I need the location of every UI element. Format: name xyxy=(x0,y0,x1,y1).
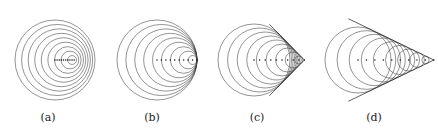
source-position-dot xyxy=(391,59,393,61)
source-position-dot xyxy=(287,59,289,61)
source-position-dot xyxy=(281,59,283,61)
source-position-dot xyxy=(65,59,67,61)
source-position-dot xyxy=(408,59,410,61)
source-position-dot xyxy=(357,59,359,61)
source-position-dot xyxy=(298,59,300,61)
source-position-dot xyxy=(69,59,71,61)
panel-label-a: (a) xyxy=(40,111,55,124)
source-position-dot xyxy=(61,59,63,61)
source-position-dot xyxy=(174,59,176,61)
source-position-dot xyxy=(67,59,69,61)
source-position-dot xyxy=(259,59,261,61)
panel-c xyxy=(218,24,305,96)
source-position-dot xyxy=(170,59,172,61)
source-position-dot xyxy=(187,59,189,61)
source-position-dot xyxy=(54,59,56,61)
source-position-dot xyxy=(196,59,198,61)
panel-label-b: (b) xyxy=(144,111,160,124)
source-position-dot xyxy=(253,59,255,61)
source-position-dot xyxy=(399,59,401,61)
source-position-dot xyxy=(416,59,418,61)
source-position-dot xyxy=(71,59,73,61)
source-position-dot xyxy=(366,59,368,61)
source-position-dot xyxy=(383,59,385,61)
source-position-dot xyxy=(178,59,180,61)
panel-label-c: (c) xyxy=(250,111,265,124)
mach-cone-line xyxy=(348,60,434,101)
source-position-dot xyxy=(165,59,167,61)
mach-cone-line xyxy=(348,19,434,60)
source-position-dot xyxy=(264,59,266,61)
panel-d xyxy=(325,19,435,102)
source-position-dot xyxy=(276,59,278,61)
source-position-dot xyxy=(59,59,61,61)
panel-b xyxy=(117,20,198,100)
source-position-dot xyxy=(56,59,58,61)
source-position-dot xyxy=(63,59,65,61)
source-position-dot xyxy=(161,59,163,61)
source-position-dot xyxy=(374,59,376,61)
source-position-dot xyxy=(292,59,294,61)
source-position-dot xyxy=(192,59,194,61)
source-position-dot xyxy=(73,59,75,61)
source-position-dot xyxy=(425,59,427,61)
source-position-dot xyxy=(270,59,272,61)
panel-label-d: (d) xyxy=(366,111,382,124)
panel-a xyxy=(15,20,95,100)
source-position-dot xyxy=(156,59,158,61)
source-position-dot xyxy=(183,59,185,61)
